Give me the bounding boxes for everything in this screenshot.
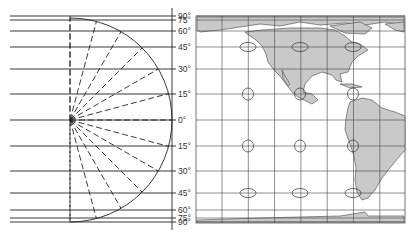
latitude-label: 45° xyxy=(178,42,191,52)
radial-line xyxy=(70,120,121,208)
mercator-diagram: 90°75°60°45°30°15°0°15°30°45°60°75°90° xyxy=(0,0,415,239)
radial-line xyxy=(70,69,158,120)
radial-line xyxy=(70,94,169,120)
construction-panel xyxy=(10,8,176,230)
radial-line xyxy=(70,120,169,146)
radial-line xyxy=(70,32,121,120)
latitude-label: 30° xyxy=(178,64,191,74)
projection-figure: 90°75°60°45°30°15°0°15°30°45°60°75°90° xyxy=(0,0,415,239)
latitude-label: 90° xyxy=(178,217,191,227)
latitude-label: 60° xyxy=(178,26,191,36)
latitude-label: 0° xyxy=(178,115,186,125)
latitude-label: 15° xyxy=(178,141,191,151)
latitude-label: 15° xyxy=(178,89,191,99)
radial-line xyxy=(70,120,96,219)
radial-line xyxy=(70,120,142,192)
mercator-map xyxy=(196,16,405,223)
radial-line xyxy=(70,21,96,120)
radial-line xyxy=(70,120,158,171)
radial-line xyxy=(70,48,142,120)
latitude-labels: 90°75°60°45°30°15°0°15°30°45°60°75°90° xyxy=(178,11,191,227)
latitude-label: 45° xyxy=(178,188,191,198)
latitude-label: 30° xyxy=(178,166,191,176)
latitude-label: 75° xyxy=(178,15,191,25)
